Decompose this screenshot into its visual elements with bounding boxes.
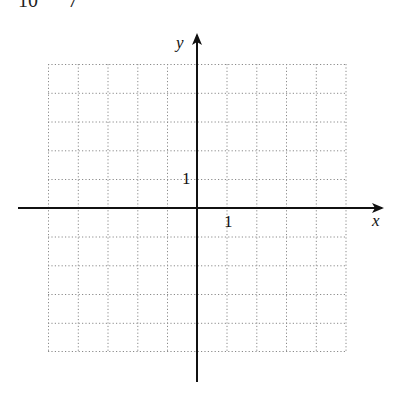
x-unit-label: 1 (224, 213, 233, 230)
x-axis-label: x (372, 212, 380, 229)
coordinate-plane (0, 0, 397, 403)
y-axis-label: y (176, 34, 184, 51)
y-unit-label: 1 (182, 170, 191, 187)
